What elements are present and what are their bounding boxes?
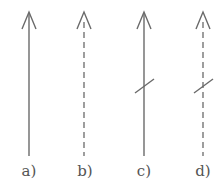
arrow-a [22,12,36,156]
slash-mark-d [194,79,213,93]
label-c: c) [137,162,151,180]
label-d: d) [195,162,210,180]
arrow-diagram [0,0,223,188]
arrow-d [194,12,213,156]
label-b: b) [77,162,92,180]
label-a: a) [22,162,37,180]
arrow-c [135,12,154,156]
arrow-b [77,12,91,156]
